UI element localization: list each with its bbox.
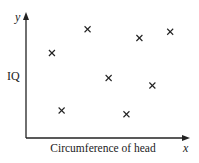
cross-marker-icon: [49, 50, 55, 56]
cross-marker-icon: [136, 35, 142, 41]
y-axis-symbol: y: [14, 10, 21, 24]
x-axis-label: Circumference of head: [50, 142, 156, 154]
cross-marker-icon: [167, 29, 173, 35]
cross-marker-icon: [123, 111, 129, 117]
cross-marker-icon: [106, 75, 112, 81]
cross-marker-icon: [85, 26, 91, 32]
x-axis-symbol: x: [182, 141, 189, 155]
y-axis-label: IQ: [7, 69, 20, 83]
cross-marker-icon: [59, 108, 65, 114]
scatter-chart: y IQ Circumference of head x: [0, 0, 199, 163]
x-axis: [26, 135, 190, 141]
y-axis: [23, 12, 29, 138]
y-axis-arrow-icon: [23, 12, 29, 20]
data-points: [49, 26, 173, 117]
cross-marker-icon: [149, 83, 155, 89]
